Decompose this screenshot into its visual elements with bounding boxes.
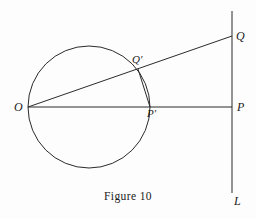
point-label-p-prime: P′ [147,108,156,119]
point-label-Q: Q [236,30,245,42]
ray-O-Q [28,36,232,107]
point-label-q-prime: Q′ [132,54,142,65]
point-label-P: P [237,101,244,113]
chord-Qprime-Pprime [138,69,150,107]
figure-caption: Figure 10 [0,190,256,202]
point-label-O: O [14,101,23,113]
geometry-canvas [0,0,256,219]
figure-10-container: O Q Q′ P P′ L Figure 10 [0,0,256,219]
